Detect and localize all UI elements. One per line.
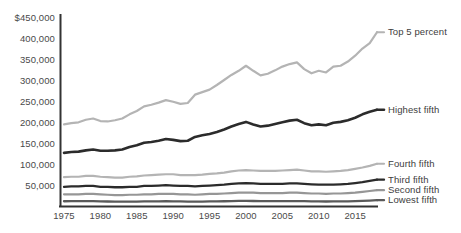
y-axis-tick-label: 150,000 (0, 138, 55, 149)
series-line-top-5-percent (64, 32, 377, 124)
y-axis-tick-label: 100,000 (0, 159, 55, 170)
series-line-fourth-fifth (64, 164, 377, 178)
y-axis-tick-label: 300,000 (0, 75, 55, 86)
series-label-lowest-fifth: Lowest fifth (388, 194, 437, 205)
series-line-highest-fifth (64, 110, 377, 153)
x-axis-tick-label: 2005 (262, 210, 302, 221)
x-axis-tick-label: 1980 (80, 210, 120, 221)
x-axis-tick-label: 2000 (226, 210, 266, 221)
x-axis-tick-label: 1975 (44, 210, 84, 221)
series-label-highest-fifth: Highest fifth (388, 104, 439, 115)
y-axis-tick-label: 200,000 (0, 117, 55, 128)
series-line-lowest-fifth (64, 200, 377, 202)
series-line-second-fifth (64, 190, 377, 195)
income-quintile-line-chart: $450,000400,000350,000300,000250,000200,… (0, 0, 461, 233)
series-label-third-fifth: Third fifth (388, 174, 429, 185)
series-label-top-5-percent: Top 5 percent (388, 26, 447, 37)
series-layer (64, 32, 377, 201)
label-leader-lines (377, 32, 384, 200)
x-axis-tick-label: 2015 (335, 210, 375, 221)
x-axis-tick-label: 1985 (117, 210, 157, 221)
y-axis-tick-label: 50,000 (0, 180, 55, 191)
y-axis-tick-label: 250,000 (0, 96, 55, 107)
y-axis-tick-label: 400,000 (0, 33, 55, 44)
x-axis-tick-label: 2010 (299, 210, 339, 221)
x-axis-tick-label: 1990 (153, 210, 193, 221)
y-axis-tick-label: $450,000 (0, 12, 55, 23)
y-axis-tick-label: 350,000 (0, 54, 55, 65)
x-axis-tick-label: 1995 (190, 210, 230, 221)
series-label-fourth-fifth: Fourth fifth (388, 158, 435, 169)
series-line-third-fifth (64, 180, 377, 188)
